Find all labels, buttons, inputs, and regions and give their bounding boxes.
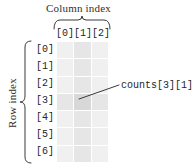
counts-annotation-label: counts[3][1] (121, 80, 193, 91)
array-index-diagram: Column index [0][1][2] Row index [0] [1]… (0, 0, 193, 167)
